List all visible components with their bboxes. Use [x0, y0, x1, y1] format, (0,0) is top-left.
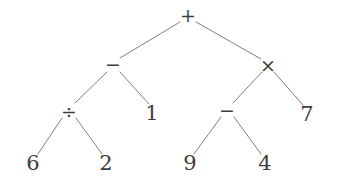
digit-six-icon: 6 — [26, 153, 39, 174]
digit-two-icon: 2 — [99, 153, 112, 174]
minus-operator-icon: − — [219, 101, 235, 120]
divide-operator-icon: ÷ — [61, 102, 77, 121]
digit-seven-icon: 7 — [300, 104, 313, 125]
digit-one-icon: 1 — [145, 103, 158, 124]
tree-node-layer: +−×÷1−76294 — [0, 0, 339, 194]
minus-operator-icon: − — [105, 55, 121, 74]
times-operator-icon: × — [260, 56, 276, 75]
expression-tree-diagram: +−×÷1−76294 — [0, 0, 339, 194]
digit-four-icon: 4 — [258, 153, 271, 174]
digit-nine-icon: 9 — [183, 153, 196, 174]
plus-operator-icon: + — [180, 6, 196, 25]
